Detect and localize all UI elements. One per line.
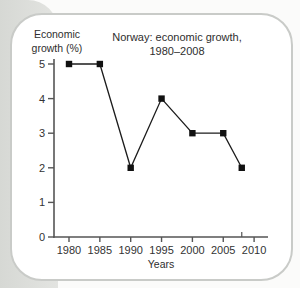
y-tick-label: 0: [39, 231, 45, 243]
data-point-2005: [220, 130, 226, 136]
data-point-1990: [128, 165, 134, 171]
x-tick-label: 2000: [180, 244, 204, 256]
data-point-1995: [158, 95, 164, 101]
x-tick-label: 1990: [118, 244, 142, 256]
x-axis-title: Years: [54, 258, 268, 270]
y-tick-label: 1: [39, 196, 45, 208]
x-tick-label: 1980: [57, 244, 81, 256]
chart-card: Economic growth (%) Norway: economic gro…: [10, 13, 293, 281]
data-point-2008: [239, 165, 245, 171]
y-tick-label: 5: [39, 58, 45, 70]
data-series-line: [69, 64, 242, 168]
data-point-2000: [189, 130, 195, 136]
line-chart: 0123451980198519901995200020052010: [12, 15, 291, 279]
x-tick-label: 2010: [242, 244, 266, 256]
x-tick-label: 1985: [88, 244, 112, 256]
data-point-1980: [66, 61, 72, 67]
y-tick-label: 3: [39, 127, 45, 139]
x-tick-label: 2005: [211, 244, 235, 256]
data-point-1985: [97, 61, 103, 67]
y-tick-label: 4: [39, 93, 45, 105]
y-tick-label: 2: [39, 162, 45, 174]
x-tick-label: 1995: [149, 244, 173, 256]
